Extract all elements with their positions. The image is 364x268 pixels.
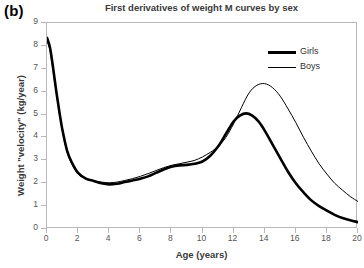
x-tick-label: 8 (158, 233, 182, 243)
x-axis-title: Age (years) (46, 249, 357, 260)
x-tick-label: 16 (283, 233, 307, 243)
x-tick-label: 18 (314, 233, 338, 243)
x-tick-label: 10 (190, 233, 214, 243)
legend-item: Girls (268, 46, 352, 61)
legend-swatch-girls (268, 51, 296, 54)
y-axis-title: Weight "velocity" (kg/year) (15, 56, 26, 216)
legend: GirlsBoys (268, 46, 352, 76)
legend-label: Boys (300, 61, 320, 71)
x-tick-label: 6 (127, 233, 151, 243)
y-tick-label: 0 (0, 222, 38, 232)
x-tick-label: 4 (96, 233, 120, 243)
x-tick-label: 20 (345, 233, 364, 243)
chart-title: First derivatives of weight M curves by … (46, 2, 357, 13)
x-tick-label: 2 (65, 233, 89, 243)
x-tick-label: 14 (252, 233, 276, 243)
x-tick-label: 0 (34, 233, 58, 243)
legend-item: Boys (268, 61, 352, 76)
legend-label: Girls (300, 46, 319, 56)
y-axis-title-wrap: Weight "velocity" (kg/year) (2, 20, 18, 220)
chart-figure: (b) First derivatives of weight M curves… (0, 0, 364, 268)
x-tick-label: 12 (221, 233, 245, 243)
legend-swatch-boys (268, 67, 296, 68)
